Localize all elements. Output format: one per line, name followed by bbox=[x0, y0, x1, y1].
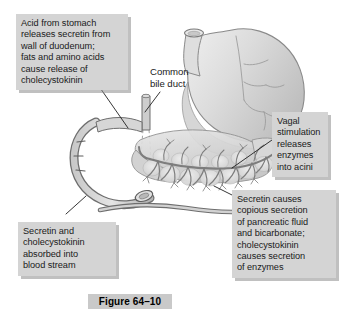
label-common-bile-duct: Common bile duct bbox=[150, 66, 216, 89]
callout-acid-releases-secretin: Acid from stomach releases secretin from… bbox=[16, 14, 128, 90]
leader-absorbed bbox=[66, 196, 86, 214]
callout-secretin-pancreatic-secretion: Secretin causes copious secretion of pan… bbox=[232, 190, 336, 278]
callout-vagal-stimulation: Vagal stimulation releases enzymes into … bbox=[272, 112, 328, 177]
figure-caption: Figure 64–10 bbox=[88, 294, 172, 309]
figure-container: Acid from stomach releases secretin from… bbox=[0, 0, 346, 317]
callout-absorbed-into-blood-stream: Secretin and cholecystokinin absorbed in… bbox=[18, 222, 116, 276]
